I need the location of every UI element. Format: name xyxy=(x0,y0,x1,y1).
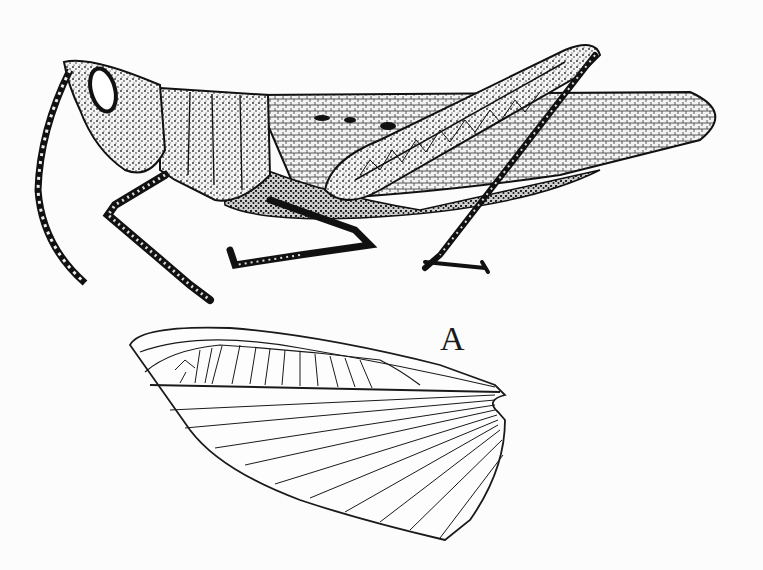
illustration-canvas: A xyxy=(0,0,763,570)
head xyxy=(64,61,165,173)
wing-label: A xyxy=(440,322,465,356)
hind-tarsus xyxy=(425,262,488,272)
hind-wing-detail xyxy=(130,328,505,540)
front-leg xyxy=(108,175,210,300)
grasshopper-illustration xyxy=(0,0,763,570)
pronotum xyxy=(160,88,270,201)
